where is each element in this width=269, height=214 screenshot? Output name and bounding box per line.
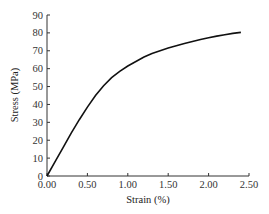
axes (47, 15, 249, 176)
y-tick-label: 80 (33, 27, 44, 38)
y-axis-title: Stress (MPa) (9, 67, 21, 122)
x-tick-label: 2.00 (199, 179, 217, 190)
y-tick-label: 90 (33, 10, 44, 21)
x-tick-label: 2.50 (240, 179, 258, 190)
y-tick-label: 40 (33, 99, 44, 110)
y-tick-label: 70 (33, 45, 44, 56)
y-tick-label: 20 (33, 135, 44, 146)
x-axis-title: Strain (%) (126, 194, 170, 206)
x-tick-label: 1.00 (119, 179, 137, 190)
data-curve (47, 32, 241, 176)
x-tick-label: 0.50 (78, 179, 96, 190)
ticks: 0.000.501.001.502.002.500102030405060708… (33, 10, 259, 191)
y-tick-label: 10 (33, 153, 44, 164)
y-tick-label: 0 (38, 171, 43, 182)
y-tick-label: 30 (33, 117, 44, 128)
x-tick-label: 1.50 (159, 179, 177, 190)
stress-strain-chart: 0.000.501.001.502.002.500102030405060708… (0, 0, 269, 214)
y-tick-label: 50 (33, 81, 44, 92)
y-tick-label: 60 (33, 63, 44, 74)
